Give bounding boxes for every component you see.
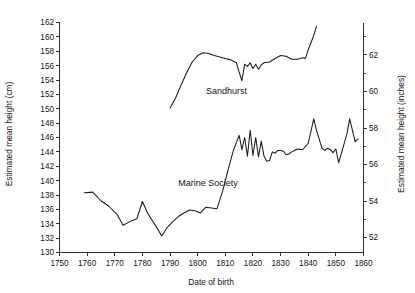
y-axis-right-tick-label: 60 (369, 87, 379, 96)
x-axis-tick-label: 1810 (216, 259, 235, 268)
series-label-marine-society: Marine Society (178, 178, 238, 188)
y-axis-right-tick-label: 56 (369, 160, 379, 169)
y-axis-left-tick-label: 144 (40, 148, 54, 157)
y-axis-right-tick-label: 52 (369, 233, 379, 242)
x-axis-tick-label: 1830 (271, 259, 290, 268)
x-axis-tick-label: 1820 (244, 259, 263, 268)
y-axis-left-tick-label: 136 (40, 205, 54, 214)
y-axis-left-tick-label: 132 (40, 234, 54, 243)
line-chart: 1301321341361381401421441461481501521541… (0, 0, 415, 293)
data-series (84, 26, 358, 236)
y-axis-left-tick-label: 156 (40, 62, 54, 71)
axis-tick-labels: 1301321341361381401421441461481501521541… (40, 18, 378, 267)
y-axis-right-title: Estimated mean height (inches) (396, 75, 406, 193)
x-axis-tick-label: 1780 (133, 259, 152, 268)
x-axis-title: Date of birth (188, 277, 234, 287)
y-axis-left-tick-label: 152 (40, 90, 54, 99)
y-axis-left-tick-label: 150 (40, 105, 54, 114)
x-axis-tick-label: 1750 (50, 259, 69, 268)
chart-container: 1301321341361381401421441461481501521541… (0, 0, 415, 293)
y-axis-left-title: Estimated mean height (cm) (4, 81, 14, 186)
y-axis-left-tick-label: 154 (40, 76, 54, 85)
series-label-sandhurst: Sandhurst (206, 86, 248, 96)
x-axis-tick-label: 1760 (78, 259, 97, 268)
y-axis-left-tick-label: 140 (40, 177, 54, 186)
y-axis-right-tick-label: 62 (369, 51, 379, 60)
y-axis-left-tick-label: 134 (40, 220, 54, 229)
y-axis-right-tick-label: 58 (369, 124, 379, 133)
series-line-marine-society (84, 119, 358, 236)
x-axis-tick-label: 1840 (299, 259, 318, 268)
y-axis-left-tick-label: 162 (40, 18, 54, 27)
y-axis-left-tick-label: 146 (40, 133, 54, 142)
axes (60, 23, 364, 253)
y-axis-left-tick-label: 138 (40, 191, 54, 200)
x-axis-tick-label: 1860 (354, 259, 373, 268)
y-axis-right-tick-label: 54 (369, 197, 379, 206)
x-axis-tick-label: 1790 (161, 259, 180, 268)
y-axis-left-tick-label: 148 (40, 119, 54, 128)
x-axis-tick-label: 1770 (106, 259, 125, 268)
axis-ticks (56, 23, 367, 257)
y-axis-left-tick-label: 158 (40, 47, 54, 56)
y-axis-left-tick-label: 160 (40, 33, 54, 42)
y-axis-left-tick-label: 142 (40, 162, 54, 171)
x-axis-tick-label: 1800 (189, 259, 208, 268)
x-axis-tick-label: 1850 (327, 259, 346, 268)
series-annotations: Marine SocietySandhurst (178, 86, 247, 188)
y-axis-left-tick-label: 130 (40, 248, 54, 257)
